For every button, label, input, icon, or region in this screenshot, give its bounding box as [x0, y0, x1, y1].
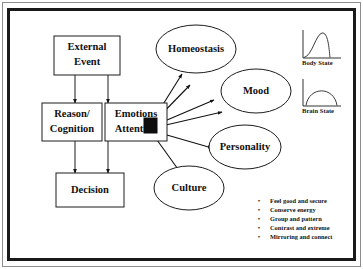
- box-external-event-label-line1: External: [67, 41, 106, 52]
- bullet-marker-0: •: [258, 197, 261, 205]
- box-reason-cognition-label-line2: Cognition: [50, 123, 95, 134]
- box-decision: Decision: [56, 173, 124, 207]
- bullet-item-0: Feel good and secure: [270, 197, 327, 204]
- ellipse-homeostasis: Homeostasis: [156, 25, 236, 73]
- box-reason-cognition-label-line1: Reason/: [54, 108, 91, 119]
- ellipse-personality-label: Personality: [220, 141, 271, 152]
- bullet-marker-1: •: [258, 206, 261, 214]
- bullet-item-3: Contrast and extreme: [270, 224, 330, 231]
- box-external-event: External Event: [54, 36, 120, 75]
- diagram-page: External Event Reason/ Cognition Emotion…: [0, 0, 363, 269]
- brain-state-curve: [306, 91, 337, 106]
- box-decision-label: Decision: [71, 184, 109, 195]
- bullet-marker-3: •: [258, 224, 261, 232]
- ellipse-mood: Mood: [221, 69, 291, 113]
- ellipse-mood-label: Mood: [243, 85, 269, 96]
- ellipse-culture: Culture: [154, 166, 224, 210]
- bullet-list: • Feel good and secure • Conserve energy…: [258, 197, 333, 241]
- attention-hub: [144, 118, 157, 133]
- ellipse-homeostasis-label: Homeostasis: [168, 43, 224, 54]
- ellipse-personality: Personality: [209, 125, 281, 169]
- ellipse-culture-label: Culture: [172, 182, 207, 193]
- brain-state-caption: Brain State: [302, 107, 334, 114]
- box-emotions-attention: Emotions Attention: [105, 103, 167, 141]
- bullet-item-1: Conserve energy: [270, 206, 316, 213]
- mini-chart-body-state: Body State: [302, 30, 341, 66]
- body-state-caption: Body State: [302, 59, 333, 66]
- box-reason-cognition: Reason/ Cognition: [42, 103, 102, 141]
- mini-chart-brain-state: Brain State: [302, 79, 341, 114]
- box-external-event-label-line2: Event: [74, 56, 101, 67]
- bullet-item-2: Group and pattern: [270, 215, 322, 222]
- bullet-marker-2: •: [258, 215, 261, 223]
- bullet-item-4: Mirroring and connect: [270, 233, 333, 240]
- bullet-marker-4: •: [258, 233, 261, 241]
- body-state-curve: [304, 33, 330, 58]
- brain-state-axes: [303, 79, 341, 106]
- emotion-attention-diagram: External Event Reason/ Cognition Emotion…: [0, 0, 363, 269]
